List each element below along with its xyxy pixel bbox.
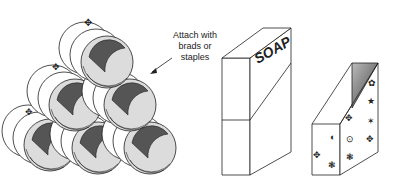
- soap-box: SOAP: [222, 28, 294, 175]
- annotation-line-2: brads or: [165, 41, 225, 52]
- annotation-line-3: staples: [165, 52, 225, 63]
- svg-text:✶: ✶: [367, 116, 375, 126]
- stacked-tubes: ✥ ✥ ✥: [2, 17, 176, 174]
- svg-text:❃: ❃: [328, 160, 336, 170]
- svg-text:✥: ✥: [345, 113, 353, 123]
- svg-text:◐: ◐: [330, 132, 335, 142]
- svg-text:✥: ✥: [25, 107, 33, 117]
- decorated-holder: ✿ ★ ✶ ✥ ◐ ⊙ ✥ ✥ ❃ ❃: [312, 63, 378, 175]
- svg-text:✥: ✥: [84, 17, 92, 28]
- diagram-canvas: ✥ ✥ ✥ SOAP ✿ ★ ✶ ✥ ◐ ⊙ ✥ ✥ ❃ ❃: [0, 0, 393, 187]
- svg-text:✿: ✿: [368, 78, 376, 88]
- annotation-line-1: Attach with: [165, 30, 225, 41]
- svg-text:✥: ✥: [52, 62, 60, 72]
- svg-text:❃: ❃: [346, 152, 354, 162]
- svg-text:⊙: ⊙: [346, 134, 354, 144]
- svg-text:★: ★: [367, 96, 375, 106]
- annotation-label: Attach with brads or staples: [165, 30, 225, 63]
- svg-text:✥: ✥: [313, 150, 321, 160]
- svg-text:✥: ✥: [366, 134, 374, 144]
